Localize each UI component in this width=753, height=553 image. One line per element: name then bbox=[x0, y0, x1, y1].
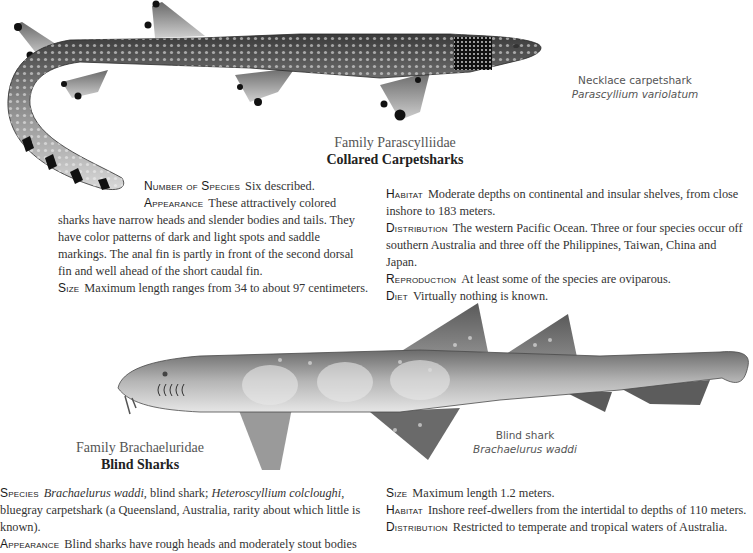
family-name: Family Parascylliidae bbox=[290, 134, 500, 151]
necklace-carpetshark-caption: Necklace carpetshark Parascyllium variol… bbox=[540, 73, 730, 101]
blind-shark-caption: Blind shark Brachaelurus waddi bbox=[450, 428, 600, 456]
fact-number-of-species: Number of SpeciesSix described. bbox=[58, 178, 370, 195]
fact-distribution: DistributionRestricted to temperate and … bbox=[386, 519, 753, 536]
scientific-name: Parascyllium variolatum bbox=[540, 87, 730, 101]
family-heading: Family Parascylliidae Collared Carpetsha… bbox=[290, 134, 500, 168]
fact-size: SizeMaximum length 1.2 meters. bbox=[386, 485, 753, 502]
fact-habitat: HabitatInshore reef-dwellers from the in… bbox=[386, 502, 753, 519]
fact-size: SizeMaximum length ranges from 34 to abo… bbox=[58, 280, 370, 297]
common-name: Blind shark bbox=[450, 428, 600, 442]
family-common-name: Collared Carpetsharks bbox=[290, 151, 500, 168]
fact-reproduction: ReproductionAt least some of the species… bbox=[386, 271, 746, 288]
section1-left-column: Number of SpeciesSix described. Appearan… bbox=[58, 178, 370, 297]
fact-diet: DietVirtually nothing is known. bbox=[386, 288, 746, 305]
scientific-name: Brachaelurus waddi bbox=[450, 442, 600, 456]
section2-right-column: SizeMaximum length 1.2 meters. HabitatIn… bbox=[386, 485, 753, 536]
section2-left-column: SpeciesBrachaelurus waddi, blind shark; … bbox=[0, 485, 375, 553]
family-name: Family Brachaeluridae bbox=[50, 439, 230, 456]
fact-appearance: AppearanceBlind sharks have rough heads … bbox=[0, 536, 375, 553]
common-name: Necklace carpetshark bbox=[540, 73, 730, 87]
fact-distribution: DistributionThe western Pacific Ocean. T… bbox=[386, 220, 746, 271]
fact-habitat: HabitatModerate depths on continental an… bbox=[386, 186, 746, 220]
fact-appearance: AppearanceThese attractively colored sha… bbox=[58, 195, 370, 280]
family-heading: Family Brachaeluridae Blind Sharks bbox=[50, 439, 230, 473]
section1-right-column: HabitatModerate depths on continental an… bbox=[386, 186, 746, 305]
family-common-name: Blind Sharks bbox=[50, 456, 230, 473]
fact-species: SpeciesBrachaelurus waddi, blind shark; … bbox=[0, 485, 375, 536]
